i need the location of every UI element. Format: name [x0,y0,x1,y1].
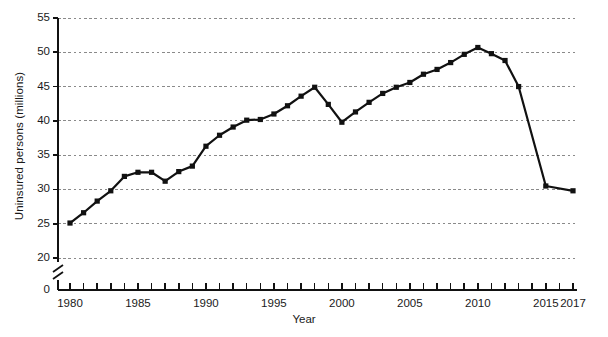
x-axis-tick-label: 1980 [53,298,87,310]
x-axis-tick-label: 2010 [461,298,495,310]
data-point-marker [448,60,453,65]
data-point-marker [516,84,521,89]
plot-area [0,0,608,337]
data-point-marker [244,118,249,123]
y-axis-tick-label: 25 [16,218,50,230]
data-series-line [70,47,573,223]
data-point-marker [135,170,140,175]
x-axis-tick-label: 2000 [325,298,359,310]
y-axis-tick-label: 50 [16,46,50,58]
x-axis-tick-label: 1990 [189,298,223,310]
data-point-marker [299,94,304,99]
data-point-marker [421,72,426,77]
data-point-marker [475,45,480,50]
x-axis-tick-label: 1985 [121,298,155,310]
data-point-marker [67,220,72,225]
y-axis-tick-label: 0 [16,284,50,296]
chart-container: Uninsured persons (millions) Year 020253… [0,0,608,337]
x-axis-tick-label: 2017 [556,298,590,310]
data-point-marker [176,169,181,174]
data-point-marker [326,102,331,107]
data-point-marker [271,111,276,116]
data-point-marker [380,91,385,96]
y-axis-break-icon [53,265,63,279]
data-point-marker [122,174,127,179]
data-point-marker [217,133,222,138]
data-point-marker [108,188,113,193]
y-axis-tick-label: 20 [16,252,50,264]
data-point-marker [312,85,317,90]
data-point-marker [81,210,86,215]
x-axis-tick-label: 1995 [257,298,291,310]
x-axis-title: Year [0,313,608,325]
y-axis-tick-label: 40 [16,115,50,127]
data-point-marker [489,51,494,56]
data-point-marker [462,52,467,57]
data-point-marker [163,179,168,184]
data-point-marker [285,103,290,108]
data-point-marker [394,85,399,90]
x-axis-tick-label: 2005 [393,298,427,310]
y-axis-tick-label: 55 [16,12,50,24]
data-point-marker [502,58,507,63]
y-axis-tick-label: 30 [16,183,50,195]
y-axis-tick-label: 35 [16,149,50,161]
data-point-marker [190,164,195,169]
data-point-marker [95,198,100,203]
data-point-marker [407,80,412,85]
data-point-marker [203,144,208,149]
data-point-marker [339,120,344,125]
data-point-marker [149,170,154,175]
data-point-marker [543,183,548,188]
data-point-marker [434,67,439,72]
y-axis-tick-label: 45 [16,81,50,93]
data-point-marker [231,124,236,129]
data-point-marker [353,109,358,114]
data-point-marker [258,117,263,122]
data-point-marker [366,100,371,105]
data-point-marker [570,188,575,193]
